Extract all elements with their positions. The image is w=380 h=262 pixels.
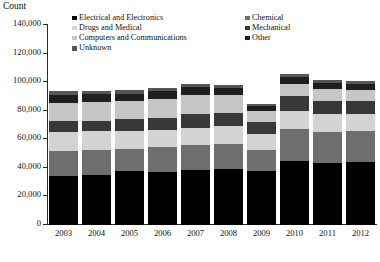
y-axis-title: Count [3, 1, 26, 11]
bar-segment [82, 94, 111, 102]
bar-2010[interactable] [280, 74, 309, 225]
bar-segment [247, 134, 276, 150]
bar-segment [247, 106, 276, 111]
bar-2012[interactable] [346, 81, 375, 225]
bar-2007[interactable] [181, 84, 210, 225]
y-tick-label: 20,000 [0, 190, 41, 199]
y-tick-label-text: 40,000 [0, 162, 41, 171]
bar-segment [115, 131, 144, 150]
bar-segment [346, 84, 375, 90]
bar-segment [346, 101, 375, 114]
bar-segment [214, 144, 243, 170]
bar-segment [346, 162, 375, 225]
bar-segment [82, 150, 111, 175]
bar-segment [313, 89, 342, 100]
y-tick-label: 80,000 [0, 105, 41, 114]
bar-segment [214, 169, 243, 225]
x-tick-label-2008: 2008 [212, 228, 245, 238]
bar-segment [49, 151, 78, 177]
x-tick-label-2004: 2004 [80, 228, 113, 238]
y-tick-label: 120,000 [0, 48, 41, 57]
bar-segment [181, 87, 210, 95]
bar-segment [313, 163, 342, 225]
bar-segment [148, 118, 177, 130]
bar-segment [280, 161, 309, 225]
bar-2004[interactable] [82, 91, 111, 225]
bar-segment [82, 131, 111, 150]
bar-segment [181, 170, 210, 225]
bar-segment [49, 95, 78, 103]
bar-segment [82, 102, 111, 121]
y-tick-label: 0 [0, 219, 41, 228]
bar-segment [247, 111, 276, 122]
bar-segment [49, 176, 78, 225]
bar-segment [247, 150, 276, 171]
x-tick-label-2010: 2010 [278, 228, 311, 238]
y-tick-label-text: 60,000 [0, 133, 41, 142]
bar-segment [214, 95, 243, 113]
bar-2008[interactable] [214, 85, 243, 225]
legend-label: Electrical and Electronics [79, 13, 163, 23]
bar-segment [313, 132, 342, 163]
bar-segment [82, 91, 111, 95]
legend-right-item[interactable]: Chemical [245, 13, 335, 23]
bar-segment [115, 90, 144, 94]
bar-segment [148, 130, 177, 147]
bar-segment [346, 114, 375, 132]
y-tick-label: 60,000 [0, 133, 41, 142]
y-tick-label: 100,000 [0, 76, 41, 85]
bar-segment [247, 171, 276, 225]
stacked-bar-chart: Count 020,00040,00060,00080,000100,00012… [0, 0, 380, 262]
bar-segment [181, 128, 210, 145]
legend-swatch-icon [245, 16, 250, 21]
bar-segment [148, 99, 177, 118]
y-tick-label-text: 0 [0, 219, 41, 228]
bar-2005[interactable] [115, 90, 144, 225]
bar-segment [181, 114, 210, 128]
legend-label: Chemical [252, 13, 283, 23]
bar-segment [346, 81, 375, 84]
bar-2009[interactable] [247, 104, 276, 225]
bar-segment [148, 172, 177, 225]
x-tick-label-2007: 2007 [179, 228, 212, 238]
bar-segment [181, 145, 210, 170]
clipped-title [60, 0, 360, 4]
bar-segment [280, 77, 309, 84]
bar-segment [115, 94, 144, 101]
bar-segment [346, 131, 375, 162]
y-tick-label-text: 140,000 [0, 19, 41, 28]
bar-segment [214, 126, 243, 143]
y-tick-label-text: 120,000 [0, 48, 41, 57]
legend-left-item[interactable]: Electrical and Electronics [72, 13, 237, 23]
y-tick-label-text: 20,000 [0, 190, 41, 199]
bar-segment [115, 119, 144, 130]
bar-segment [214, 85, 243, 88]
bar-segment [49, 121, 78, 132]
bar-segment [49, 132, 78, 151]
y-tick-label: 140,000 [0, 19, 41, 28]
bar-segment [82, 121, 111, 132]
x-tick-label-2003: 2003 [47, 228, 80, 238]
bar-segment [280, 129, 309, 160]
bar-segment [214, 88, 243, 95]
bar-segment [181, 84, 210, 88]
bar-2003[interactable] [49, 91, 78, 225]
bar-2006[interactable] [148, 88, 177, 225]
bar-segment [280, 84, 309, 95]
bar-segment [247, 104, 276, 106]
bar-segment [148, 91, 177, 99]
bar-segment [49, 103, 78, 122]
bar-segment [313, 114, 342, 132]
bar-plot-area [47, 24, 377, 225]
bar-segment [346, 90, 375, 101]
bar-segment [115, 149, 144, 171]
bar-2011[interactable] [313, 80, 342, 225]
y-tick-label-text: 80,000 [0, 105, 41, 114]
bar-segment [313, 101, 342, 115]
bar-segment [115, 171, 144, 225]
bar-segment [214, 113, 243, 127]
y-tick-label-text: 100,000 [0, 76, 41, 85]
bar-segment [115, 101, 144, 120]
legend-swatch-icon [72, 16, 77, 21]
x-tick-label-2006: 2006 [146, 228, 179, 238]
